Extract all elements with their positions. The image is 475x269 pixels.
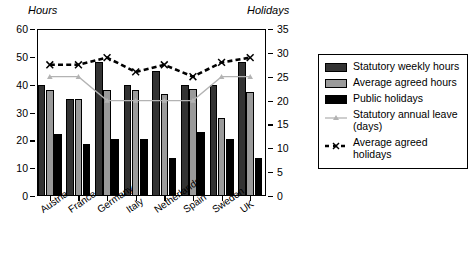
left-tick-mark	[30, 196, 35, 197]
left-tick-mark	[30, 168, 35, 169]
left-tick-label: 0	[22, 191, 28, 201]
right-axis-title: Holidays	[247, 4, 289, 16]
right-tick-label: 15	[277, 119, 289, 129]
legend-label: Statutory annual leave (days)	[353, 109, 465, 132]
chart-legend: Statutory weekly hoursAverage agreed hou…	[318, 54, 468, 169]
left-tick-mark	[30, 140, 35, 141]
lines-layer	[37, 29, 266, 196]
left-tick-label: 30	[16, 108, 28, 118]
category-label: Italy	[124, 195, 145, 215]
right-tick-mark	[268, 124, 273, 125]
left-axis-ticks: 0102030405060	[0, 29, 35, 196]
left-tick-label: 50	[16, 52, 28, 62]
right-tick-mark	[268, 29, 273, 30]
left-tick-mark	[30, 113, 35, 114]
right-tick-label: 10	[277, 143, 289, 153]
legend-label: Average agreed hours	[353, 77, 457, 89]
left-tick-label: 60	[16, 24, 28, 34]
right-tick-mark	[268, 172, 273, 173]
series-line	[50, 77, 250, 101]
left-tick-mark	[30, 85, 35, 86]
legend-item: Statutory weekly hours	[325, 61, 459, 73]
left-tick-label: 20	[16, 135, 28, 145]
legend-item: Public holidays	[325, 93, 423, 105]
right-axis-ticks: 05101520253035	[268, 29, 308, 196]
right-tick-mark	[268, 101, 273, 102]
legend-label: Statutory weekly hours	[353, 61, 459, 73]
left-tick-mark	[30, 57, 35, 58]
right-tick-mark	[268, 77, 273, 78]
legend-item: Average agreed holidays	[325, 137, 465, 160]
right-tick-mark	[268, 148, 273, 149]
chart-figure: Hours Holidays 0102030405060 05101520253…	[0, 0, 475, 269]
right-tick-label: 25	[277, 72, 289, 82]
right-tick-mark	[268, 53, 273, 54]
plot-area	[37, 29, 266, 196]
category-label: UK	[238, 198, 256, 215]
right-tick-label: 30	[277, 48, 289, 58]
legend-label: Public holidays	[353, 93, 423, 105]
legend-swatch	[325, 79, 347, 88]
left-tick-label: 10	[16, 163, 28, 173]
legend-item: Average agreed hours	[325, 77, 457, 89]
legend-line-sample	[325, 109, 347, 120]
left-axis-title: Hours	[28, 4, 57, 16]
right-tick-label: 20	[277, 96, 289, 106]
legend-swatch	[325, 95, 347, 104]
right-tick-label: 0	[277, 191, 283, 201]
right-tick-label: 5	[277, 167, 283, 177]
left-tick-mark	[30, 29, 35, 30]
legend-item: Statutory annual leave (days)	[325, 109, 465, 132]
legend-label: Average agreed holidays	[353, 137, 465, 160]
right-tick-mark	[268, 196, 273, 197]
left-tick-label: 40	[16, 80, 28, 90]
right-tick-label: 35	[277, 24, 289, 34]
legend-swatch	[325, 63, 347, 72]
legend-line-sample	[325, 137, 347, 148]
